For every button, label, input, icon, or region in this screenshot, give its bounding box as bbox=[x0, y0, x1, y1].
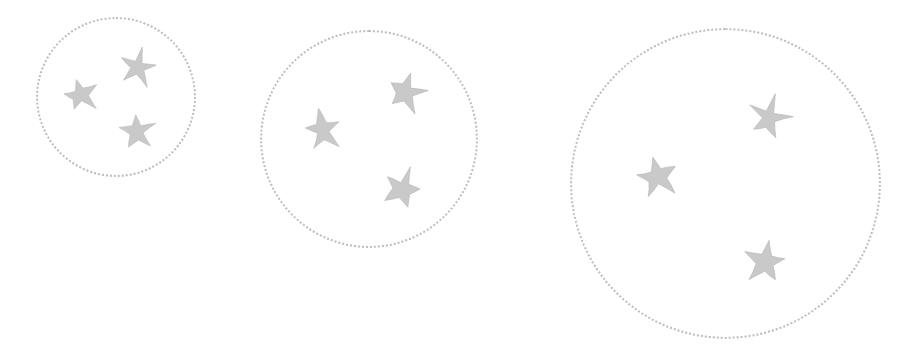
star-icon bbox=[630, 150, 685, 205]
dotted-circle-boundary bbox=[570, 28, 881, 339]
scene-canvas bbox=[0, 0, 922, 358]
star-icon bbox=[113, 42, 163, 92]
dotted-circle-boundary bbox=[260, 30, 478, 248]
star-icon bbox=[114, 108, 159, 153]
star-group-3 bbox=[570, 28, 881, 339]
star-group-2 bbox=[260, 30, 478, 248]
star-icon bbox=[296, 104, 348, 156]
star-group-1 bbox=[36, 17, 196, 177]
star-icon bbox=[739, 235, 793, 289]
